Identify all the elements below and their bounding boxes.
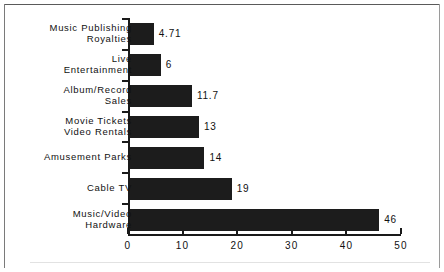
bar-value-label: 11.7 <box>197 90 219 101</box>
bar <box>130 178 232 200</box>
chart-figure: 010203040504.71Music Publishing Royaltie… <box>0 0 444 272</box>
bar <box>130 116 199 138</box>
plot-area: 010203040504.71Music Publishing Royaltie… <box>0 0 444 272</box>
y-axis-tick <box>122 141 130 143</box>
category-label: Live Entertainment <box>0 53 132 75</box>
y-axis-tick <box>122 203 130 205</box>
x-axis-tick-label: 50 <box>381 240 421 251</box>
x-axis-tick-label: 30 <box>272 240 312 251</box>
bar-value-label: 14 <box>209 152 222 163</box>
category-label: Music/Video Hardware <box>0 208 132 230</box>
x-axis-tick-label: 20 <box>217 240 257 251</box>
bar <box>130 147 204 169</box>
bar <box>130 23 154 45</box>
x-axis-line <box>128 234 401 236</box>
bar-value-label: 46 <box>384 214 397 225</box>
y-axis-tick <box>122 18 130 20</box>
y-axis-tick <box>122 49 130 51</box>
y-axis-tick <box>122 111 130 113</box>
x-axis-tick-label: 10 <box>163 240 203 251</box>
bar-value-label: 13 <box>204 121 217 132</box>
y-axis-tick <box>122 172 130 174</box>
category-label: Cable TV <box>0 182 132 193</box>
bar <box>130 209 379 231</box>
bar-value-label: 4.71 <box>159 28 182 39</box>
category-label: Music Publishing Royalties <box>0 22 132 44</box>
y-axis-tick <box>122 80 130 82</box>
bar <box>130 54 161 76</box>
category-label: Album/Record Sales <box>0 84 132 106</box>
x-axis-tick <box>400 228 402 234</box>
bar-value-label: 6 <box>166 59 172 70</box>
bar-value-label: 19 <box>237 183 250 194</box>
category-label: Amusement Parks <box>0 151 132 162</box>
x-axis-tick-label: 0 <box>108 240 148 251</box>
bar <box>130 85 192 107</box>
category-label: Movie Tickets Video Rentals <box>0 115 132 137</box>
x-axis-tick-label: 40 <box>326 240 366 251</box>
